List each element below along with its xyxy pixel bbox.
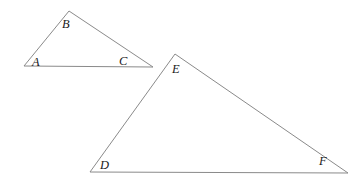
geometry-canvas <box>0 0 357 181</box>
triangle-def <box>90 54 348 173</box>
vertex-label-b: B <box>62 18 70 31</box>
vertex-label-f: F <box>319 155 327 168</box>
vertex-label-c: C <box>119 55 127 68</box>
vertex-label-e: E <box>172 63 180 76</box>
vertex-label-a: A <box>32 56 40 69</box>
vertex-label-d: D <box>100 159 109 172</box>
triangle-abc <box>24 11 153 67</box>
geometry-diagram: A B C D E F <box>0 0 357 181</box>
